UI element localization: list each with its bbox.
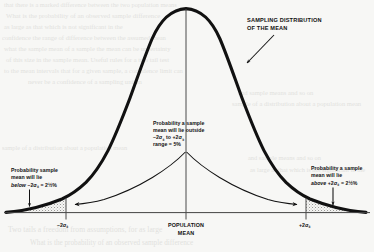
right-annotation-line3: above +2σx̄ = 2½% <box>311 180 358 188</box>
ghost-line: What is the probability of an observed s… <box>6 12 160 19</box>
right-annotation-line2: mean will lie <box>311 172 342 178</box>
ghost-line: and sample means and so on <box>248 154 322 161</box>
left-annotation-line2: mean will lie <box>11 174 42 180</box>
tick-label-plus-2-sigma: +2σx̄ <box>299 222 310 230</box>
left-annotation-group: Probability sample mean will lie below –… <box>11 167 58 207</box>
ghost-line: to the mean intervals that for a given s… <box>4 67 184 74</box>
ghost-line: never be a confidence of a sampling unit… <box>28 78 143 85</box>
population-mean-label-line1: POPULATION <box>168 222 204 228</box>
ghost-line: confidence the range of difference betwe… <box>2 34 167 41</box>
sampling-distribution-label-line2: OF THE MEAN <box>247 25 288 31</box>
ghost-line: Two tails a freedom from assumptions, fo… <box>8 225 163 234</box>
center-annotation-line4: range = 5% <box>153 141 181 147</box>
sampling-distribution-label-group: SAMPLING DISTRIBUTION OF THE MEAN <box>247 17 322 63</box>
left-annotation-line1: Probability sample <box>11 167 58 173</box>
distribution-figure: that there is a marked difference betwee… <box>0 0 374 252</box>
ghost-line: that there is a marked difference betwee… <box>4 1 177 8</box>
sampling-distribution-leader-arrow <box>247 35 274 63</box>
ghost-line: as large as that which is not significan… <box>4 23 123 30</box>
left-annotation-line3: below –2σx̄ = 2½% <box>11 182 57 190</box>
right-annotation-line1: Probability a sample <box>311 165 363 171</box>
ghost-line: sample of a distribution about a populat… <box>232 100 362 107</box>
figure-canvas: that there is a marked difference betwee… <box>0 0 374 252</box>
population-mean-label-line2: MEAN <box>178 230 194 236</box>
ghost-line: and sample means and so on <box>238 89 314 96</box>
center-annotation-line1: Probability a sample <box>153 120 205 126</box>
sampling-distribution-label-line1: SAMPLING DISTRIBUTION <box>247 17 322 23</box>
center-annotation-line2: mean will lie outside <box>153 127 205 133</box>
ghost-line: What is the probability of an observed s… <box>30 239 193 247</box>
center-annotation-group: Probability a sample mean will lie outsi… <box>153 120 205 148</box>
